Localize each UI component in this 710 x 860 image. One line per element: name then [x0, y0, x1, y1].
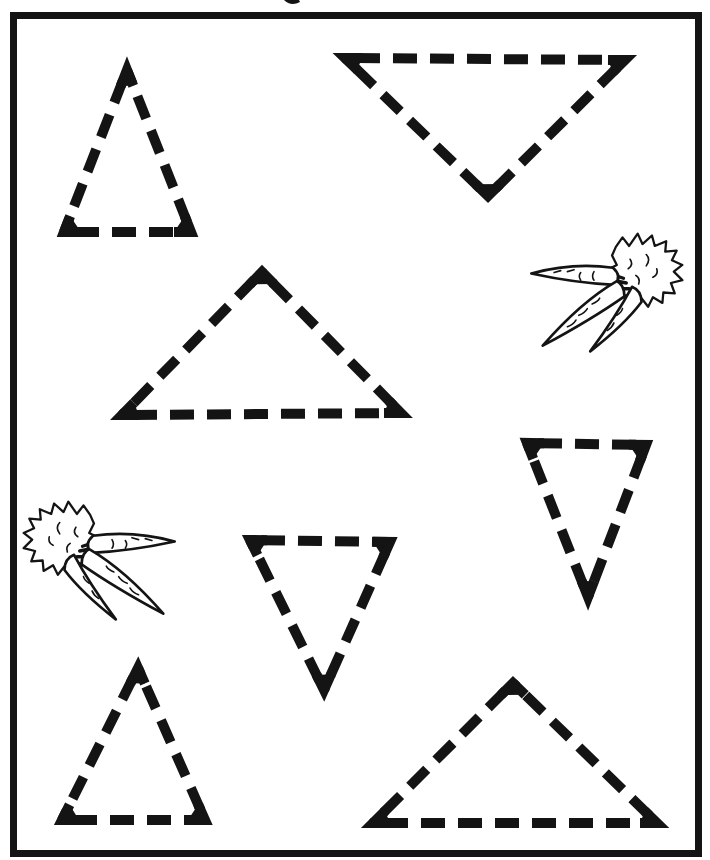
- worksheet-canvas: [0, 0, 710, 860]
- triangle-corner-mark: [476, 184, 500, 196]
- triangle-corner-mark: [130, 668, 144, 684]
- triangle-corner-mark: [250, 272, 274, 284]
- triangle-side: [527, 443, 646, 445]
- triangle-corner-mark: [582, 581, 594, 597]
- triangle-corner-mark: [501, 683, 525, 695]
- worksheet-page: [0, 0, 710, 860]
- triangle-corner-mark: [316, 674, 330, 690]
- triangle-corner-mark: [121, 70, 133, 86]
